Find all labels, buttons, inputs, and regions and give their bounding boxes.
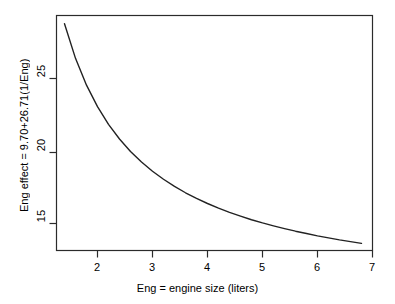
x-axis-title: Eng = engine size (liters) <box>0 282 395 294</box>
y-tick-label-25: 25 <box>36 65 47 77</box>
y-axis-title: Eng effect = 9.70+26.71(1/Eng) <box>18 40 30 230</box>
plot-frame <box>57 16 373 251</box>
x-tick-label-1: 2 <box>94 262 100 273</box>
x-tick-label-5: 6 <box>314 262 320 273</box>
y-tick-label-15: 15 <box>36 210 47 222</box>
x-axis-ticks <box>98 251 373 258</box>
plot-canvas <box>0 0 395 304</box>
data-curve-line <box>65 24 362 244</box>
chart-figure: 2 3 4 5 6 7 25 20 15 Eng = engine size (… <box>0 0 395 304</box>
x-tick-label-6: 7 <box>369 262 375 273</box>
x-tick-label-2: 3 <box>149 262 155 273</box>
y-tick-label-20: 20 <box>36 139 47 151</box>
y-axis-ticks <box>50 79 57 224</box>
x-tick-label-3: 4 <box>204 262 210 273</box>
x-tick-label-4: 5 <box>259 262 265 273</box>
